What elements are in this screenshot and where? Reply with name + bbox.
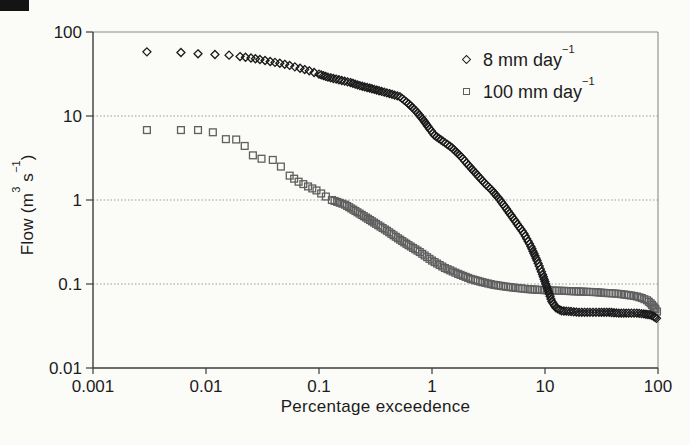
square-marker-icon — [458, 88, 474, 95]
square-marker — [536, 287, 543, 294]
diamond-marker-icon — [458, 56, 474, 63]
x-tick-label: 10 — [536, 377, 555, 396]
square-marker — [233, 136, 240, 143]
square-marker — [241, 143, 248, 150]
x-tick-label: 0.01 — [189, 377, 222, 396]
diamond-marker — [600, 308, 608, 316]
square-marker — [249, 152, 256, 159]
y-tick-label: 0.1 — [58, 275, 82, 294]
y-axis-title: Flow (m3 s−1) — [16, 37, 38, 373]
y-title-superscript: −1 — [10, 160, 22, 173]
square-marker — [570, 288, 577, 295]
diamond-marker — [578, 308, 586, 316]
square-marker — [195, 127, 202, 134]
square-marker — [277, 163, 284, 170]
square-marker — [529, 286, 536, 293]
legend-item-8mm: 8 mm day−1 — [458, 46, 595, 73]
y-title-superscript: 3 — [10, 187, 22, 193]
legend-item-100mm: 100 mm day−1 — [458, 78, 595, 105]
legend-label: 100 mm day−1 — [483, 81, 595, 103]
square-marker — [309, 185, 316, 192]
x-tick-label: 0.1 — [307, 377, 331, 396]
square-marker — [575, 288, 582, 295]
square-marker — [563, 288, 570, 295]
square-marker — [534, 286, 541, 293]
square-marker — [531, 286, 538, 293]
legend: 8 mm day−1 100 mm day−1 — [458, 46, 595, 105]
square-marker — [573, 288, 580, 295]
y-tick-label: 10 — [63, 107, 82, 126]
diamond-marker — [225, 51, 233, 59]
x-axis-title: Percentage exceedence — [93, 397, 658, 417]
diamond-marker — [194, 50, 202, 58]
diamond-marker — [177, 49, 185, 57]
diamond-marker — [583, 308, 591, 316]
diamond-marker — [211, 50, 219, 58]
diamond-marker — [143, 48, 151, 56]
square-marker — [305, 183, 312, 190]
square-marker — [568, 288, 575, 295]
y-tick-label: 100 — [54, 23, 82, 42]
x-tick-label: 100 — [644, 377, 672, 396]
legend-label: 8 mm day−1 — [483, 49, 575, 71]
diamond-marker — [580, 308, 588, 316]
square-marker — [144, 127, 151, 134]
x-tick-label: 0.001 — [72, 377, 115, 396]
x-tick-label: 1 — [427, 377, 436, 396]
y-tick-label: 1 — [73, 191, 82, 210]
square-marker — [566, 288, 573, 295]
square-marker — [178, 127, 185, 134]
flow-duration-figure: 0.0010.010.11101001001010.10.01 Flow (m3… — [0, 0, 690, 445]
square-marker — [300, 181, 307, 188]
square-marker — [209, 129, 216, 136]
y-tick-label: 0.01 — [49, 359, 82, 378]
square-marker — [222, 136, 229, 143]
square-marker — [258, 155, 265, 162]
square-marker — [269, 157, 276, 164]
